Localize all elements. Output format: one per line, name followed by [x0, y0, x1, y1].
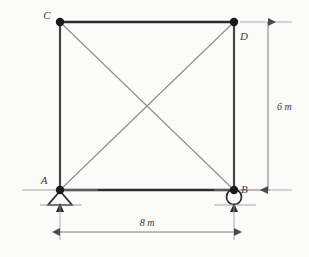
node-label-B: B — [241, 183, 248, 195]
node-label-A: A — [40, 174, 48, 186]
joint-C — [56, 18, 64, 26]
height-dimension-label: 6 m — [277, 101, 292, 112]
truss-diagram-canvas: 8 m 6 m C D A B — [0, 0, 309, 257]
joint-D — [230, 18, 238, 26]
width-dimension-group: 8 m — [60, 217, 234, 232]
width-dimension-label: 8 m — [140, 217, 155, 228]
pinned-support-A — [22, 190, 98, 240]
node-label-group: C D A B — [40, 9, 248, 195]
node-label-C: C — [43, 9, 51, 21]
joint-A — [56, 186, 64, 194]
brace-group — [60, 22, 234, 190]
node-label-D: D — [239, 30, 248, 42]
height-dimension-group: 6 m — [240, 22, 292, 190]
truss-diagram-figure: 8 m 6 m C D A B — [0, 0, 309, 257]
joint-B — [230, 186, 238, 194]
